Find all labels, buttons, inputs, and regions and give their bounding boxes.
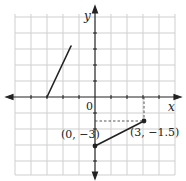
dashed-guides bbox=[95, 97, 144, 121]
x-axis-right-arrow-icon bbox=[174, 95, 181, 100]
x-axis-label: x bbox=[168, 100, 175, 114]
point-label-3-neg1.5: (3, −1.5) bbox=[130, 126, 179, 139]
point-0-neg3 bbox=[93, 144, 98, 149]
point-3-neg1.5 bbox=[142, 119, 147, 124]
y-axis-up-arrow-icon bbox=[93, 6, 98, 13]
coordinate-plane: y x 0 (0, −3) (3, −1.5) bbox=[0, 0, 186, 181]
origin-label: 0 bbox=[86, 100, 93, 113]
x-axis-left-arrow-icon bbox=[6, 95, 13, 100]
axes bbox=[6, 6, 181, 179]
point-label-0-neg3: (0, −3) bbox=[61, 128, 100, 141]
upper-left-segment bbox=[47, 46, 71, 97]
y-axis-down-arrow-icon bbox=[93, 172, 98, 179]
y-axis-label: y bbox=[83, 9, 91, 23]
